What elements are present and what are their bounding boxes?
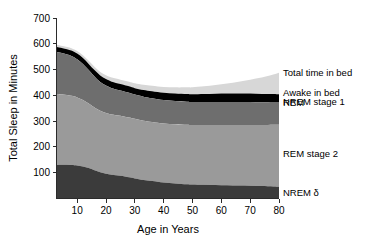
legend-label-rem-stage-2: REM stage 2 [283, 148, 338, 159]
y-tick-label: 500 [33, 64, 50, 75]
y-axis-title: Total Sleep in Minutes [7, 54, 19, 162]
y-tick-label: 700 [33, 13, 50, 24]
y-tick-label: 600 [33, 38, 50, 49]
x-tick-label: 70 [245, 205, 257, 216]
legend-label-nrem: NREM δ [283, 187, 319, 198]
x-tick-label: 20 [100, 205, 112, 216]
y-tick-label: 300 [33, 116, 50, 127]
figure-canvas: 100200300400500600700 1020304050607080 T… [0, 0, 375, 242]
y-tick-label: 400 [33, 90, 50, 101]
legend-label-total-time-in-bed: Total time in bed [283, 67, 352, 78]
x-tick-label: 80 [273, 205, 285, 216]
x-tick-label: 30 [129, 205, 141, 216]
legend-label-rem: REM [283, 97, 304, 108]
x-tick-label: 60 [216, 205, 228, 216]
x-tick-label: 50 [187, 205, 199, 216]
y-tick-label: 100 [33, 167, 50, 178]
sleep-stage-area-chart: 100200300400500600700 1020304050607080 T… [0, 0, 375, 242]
x-axis-title: Age in Years [137, 223, 199, 235]
x-tick-label: 40 [158, 205, 170, 216]
y-tick-label: 200 [33, 141, 50, 152]
x-tick-label: 10 [72, 205, 84, 216]
